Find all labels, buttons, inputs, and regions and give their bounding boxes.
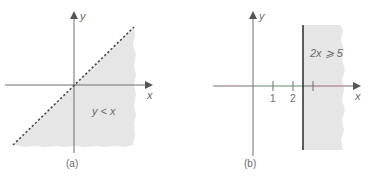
tick-label-1: 1 <box>270 93 276 104</box>
tick-label-2: 2 <box>290 93 296 104</box>
x-axis-label-b: x <box>354 90 361 102</box>
region-label-b: 2x ⩾ 5 <box>309 47 344 59</box>
caption-b: (b) <box>244 158 256 169</box>
panel-b: 1 2 y x 2x ⩾ 5 (b) <box>213 10 361 169</box>
region-label-a: y < x <box>91 105 116 117</box>
shaded-region-b <box>303 25 345 150</box>
diagram-canvas: y x y < x (a) 1 2 y x 2x ⩾ 5 (b) <box>0 0 370 181</box>
panel-a: y x y < x (a) <box>5 10 153 169</box>
y-axis-label-a: y <box>79 10 87 22</box>
caption-a: (a) <box>66 158 78 169</box>
y-axis-label-b: y <box>258 10 266 22</box>
x-axis-label-a: x <box>146 89 153 101</box>
